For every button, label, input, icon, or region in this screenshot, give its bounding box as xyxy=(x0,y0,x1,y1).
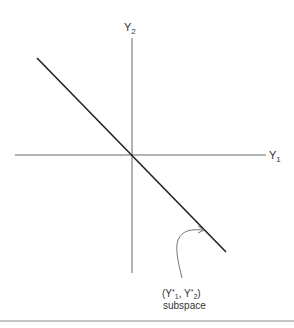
y1-axis-label: Y1 xyxy=(269,149,281,164)
annotation-subspace: subspace xyxy=(163,300,206,311)
pointer-arrow xyxy=(177,230,203,278)
y2-axis-label: Y2 xyxy=(124,21,136,36)
annotation-coordinates: (Y*1, Y*2) xyxy=(162,288,201,300)
diagram-canvas: Y2 Y1 (Y*1, Y*2) subspace xyxy=(0,0,294,328)
